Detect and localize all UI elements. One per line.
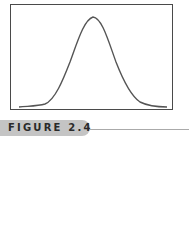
figure-label: FIGURE 2.4 xyxy=(8,121,93,135)
caption-rule xyxy=(90,129,189,130)
